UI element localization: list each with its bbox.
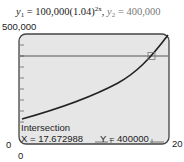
- y1-exponent: 2x: [95, 5, 102, 13]
- intersection-values: X = 17.672988Y = 400000: [21, 133, 149, 144]
- xmin-label: 0: [18, 150, 23, 161]
- y1-expression: = 100,000(1.04): [24, 6, 95, 17]
- xmax-label: 20: [172, 138, 183, 149]
- intersection-x-value: X = 17.672988: [21, 133, 83, 144]
- intersection-y-value: Y = 400000: [100, 133, 149, 144]
- equation-header: y1 = 100,000(1.04)2x, y2 = 400,000: [16, 5, 161, 19]
- ymax-label: 500,000: [2, 21, 36, 32]
- ymin-label: 0: [6, 139, 11, 150]
- intersection-title: Intersection: [21, 122, 70, 133]
- y2-equation: y2 = 400,000: [107, 6, 160, 17]
- y2-expression: = 400,000: [115, 6, 160, 17]
